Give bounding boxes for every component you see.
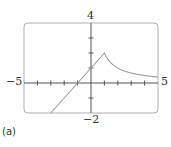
y-min-label: −2 — [83, 114, 99, 125]
figure-caption: (a) — [2, 126, 16, 137]
x-min-label: −5 — [6, 76, 22, 87]
y-max-label: 4 — [87, 10, 94, 21]
x-max-label: 5 — [161, 76, 168, 87]
